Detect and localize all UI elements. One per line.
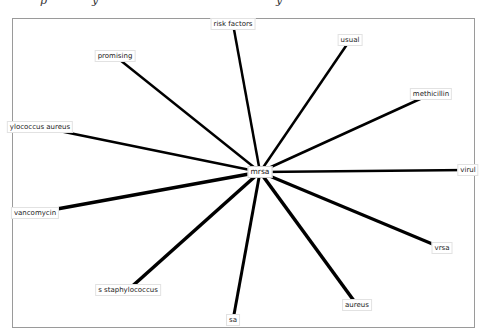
- node-vancomycin[interactable]: vancomycin: [11, 207, 59, 219]
- node-vrsa[interactable]: vrsa: [432, 242, 453, 254]
- edge-mrsa-promising: [115, 56, 260, 172]
- edge-mrsa-staphylococcus-aureus: [40, 127, 260, 172]
- edge-mrsa-virul: [260, 170, 468, 172]
- node-virul[interactable]: virul: [457, 164, 478, 176]
- node-aureus[interactable]: aureus: [342, 299, 372, 311]
- node-staphylococcus-aureus[interactable]: ylococcus aureus: [7, 121, 73, 133]
- node-s-staphylococcus[interactable]: s staphylococcus: [95, 284, 161, 296]
- node-promising[interactable]: promising: [95, 50, 136, 62]
- edge-mrsa-vancomycin: [35, 172, 260, 213]
- network-edges: [0, 0, 483, 332]
- node-risk-factors[interactable]: risk factors: [211, 18, 256, 30]
- edge-mrsa-risk-factors: [233, 24, 260, 172]
- node-methicillin[interactable]: methicillin: [410, 88, 452, 100]
- node-mrsa[interactable]: mrsa: [248, 166, 273, 178]
- node-usual[interactable]: usual: [338, 34, 363, 46]
- node-sa[interactable]: sa: [226, 314, 240, 326]
